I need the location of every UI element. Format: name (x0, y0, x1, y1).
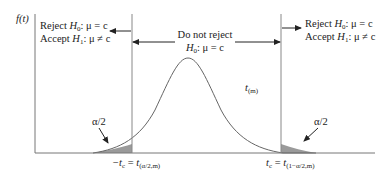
curve-label: t(m) (245, 82, 258, 94)
right-reject-label: Reject H0: μ = c (305, 18, 373, 30)
right-tail-alpha-label: α/2 (314, 116, 328, 128)
right-tail-shaded-area (281, 144, 316, 153)
left-tail-alpha-label: α/2 (92, 116, 106, 128)
right-accept-label: Accept H1: μ ≠ c (305, 31, 375, 43)
left-reject-label: Reject H0: μ = c (40, 20, 108, 32)
left-tail-pointer-arrow (99, 128, 108, 143)
t-distribution-curve (93, 58, 316, 153)
left-accept-label: Accept H1: μ ≠ c (40, 33, 110, 45)
right-tail-pointer-arrow (304, 128, 318, 141)
right-critical-value-label: tc = t(1−α/2,m) (266, 157, 315, 169)
left-critical-value-label: −tc = t(α/2,m) (112, 157, 160, 169)
y-axis-label: f(t) (16, 13, 29, 25)
h0-middle-label: H0: μ = c (165, 42, 245, 54)
do-not-reject-label: Do not reject (165, 29, 245, 41)
